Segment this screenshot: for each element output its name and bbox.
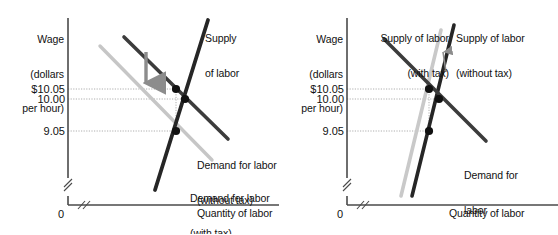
left-supply-label: Supply of labor [205,10,239,102]
left-panel: Wage (dollars per hour) $10.05 10.00 9.0… [0,0,279,234]
right-supply-without-tax-line2: (without tax) [456,68,525,80]
point-9-05 [425,127,433,135]
left-supply-label-line2: of labor [205,68,239,80]
left-demand-with-tax-line2: (with tax) [190,228,270,235]
right-supply-with-tax-line1: Supply of labor [334,33,449,45]
right-supply-without-tax-label: Supply of labor (without tax) [456,10,525,102]
point-9-05 [172,127,180,135]
figure-container: Wage (dollars per hour) $10.05 10.00 9.0… [0,0,558,234]
right-tick-9-05: 9.05 [289,125,344,137]
left-tick-9-05: 9.05 [10,125,65,137]
left-y-axis-line2: (dollars [8,69,64,81]
right-supply-without-tax-line1: Supply of labor [456,33,525,45]
right-origin-label: 0 [337,208,343,220]
left-supply-label-line1: Supply [205,33,239,45]
right-supply-with-tax-label: Supply of labor (with tax) [334,10,449,102]
right-panel: Wage (dollars per hour) $10.05 10.00 9.0… [279,0,558,234]
left-y-axis-title: Wage (dollars per hour) [8,11,64,138]
left-x-axis-title: Quantity of labor [197,208,272,220]
right-supply-with-tax-line2: (with tax) [334,68,449,80]
point-10-00 [181,95,189,103]
right-demand-line1: Demand for [464,170,518,182]
right-x-axis-title: Quantity of labor [449,208,524,220]
left-origin-label: 0 [58,208,64,220]
left-y-axis-line1: Wage [8,34,64,46]
point-10-05 [172,85,180,93]
left-demand-with-tax-label: Demand for labor (with tax) [190,170,270,234]
left-tick-10-00: 10.00 [10,93,65,105]
right-demand-label: Demand for labor [464,147,518,234]
leader-lines [68,89,185,131]
left-demand-with-tax-line1: Demand for labor [190,193,270,205]
